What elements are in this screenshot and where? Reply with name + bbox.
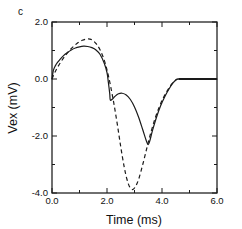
series-dashed-line [52,39,217,190]
x-tick-label: 6.0 [210,195,223,206]
y-tick-labels: 2.00.0-2.0-4.0 [32,16,48,198]
x-axis-title: Time (ms) [106,213,162,227]
x-tick-label: 2.0 [100,195,113,206]
x-tick-label: 4.0 [155,195,168,206]
x-tick-labels: 0.02.04.06.0 [45,195,223,206]
y-tick-label: -4.0 [32,187,48,198]
y-tick-label: 0.0 [35,73,48,84]
series-solid-line [52,46,217,144]
y-axis-title: Vex (mV) [6,82,20,133]
figure-panel-c: c 0.02.04.06.0 2.00.0-2.0-4.0 Time (ms) … [0,0,242,229]
y-tick-label: 2.0 [35,16,48,27]
line-chart: 0.02.04.06.0 2.00.0-2.0-4.0 Time (ms) Ve… [0,0,242,229]
y-tick-label: -2.0 [32,130,48,141]
